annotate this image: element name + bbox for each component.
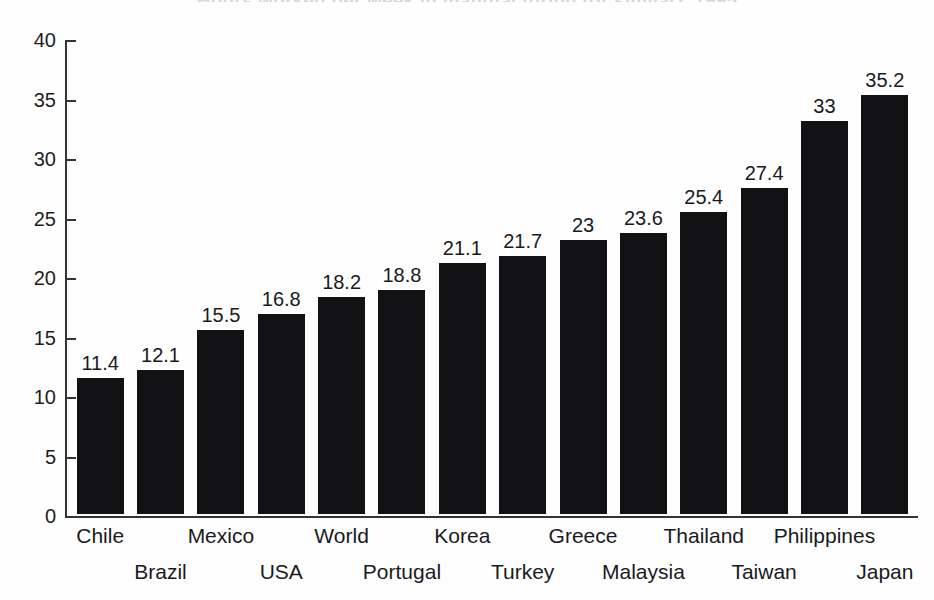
x-category-label: Korea xyxy=(434,525,490,546)
x-category-label: Portugal xyxy=(363,561,441,582)
y-tick-label: 40 xyxy=(34,30,56,50)
bar: 23 xyxy=(560,240,607,514)
bar-value-label: 18.2 xyxy=(322,272,361,292)
plot-area: 0510152025303540 11.412.115.516.818.218.… xyxy=(65,40,918,516)
bar-value-label: 23.6 xyxy=(624,208,663,228)
bar-value-label: 27.4 xyxy=(745,163,784,183)
bar: 27.4 xyxy=(741,188,788,514)
x-axis-spine xyxy=(65,516,918,518)
bar-value-label: 15.5 xyxy=(201,305,240,325)
y-tick-mark xyxy=(65,397,76,399)
x-category-label: Turkey xyxy=(491,561,554,582)
bar: 21.1 xyxy=(439,263,486,514)
y-tick-label: 25 xyxy=(34,209,56,229)
bar: 12.1 xyxy=(137,370,184,514)
y-tick-label: 0 xyxy=(45,506,56,526)
y-tick-label: 30 xyxy=(34,149,56,169)
y-tick-label: 35 xyxy=(34,90,56,110)
x-category-label: Thailand xyxy=(663,525,744,546)
y-tick-label: 10 xyxy=(34,387,56,407)
x-category-label: Brazil xyxy=(134,561,187,582)
x-category-label: USA xyxy=(260,561,303,582)
bar-value-label: 23 xyxy=(572,215,594,235)
y-tick-mark xyxy=(65,219,76,221)
bar: 35.2 xyxy=(861,95,908,514)
bar: 16.8 xyxy=(258,314,305,514)
y-tick-mark xyxy=(65,159,76,161)
bar: 11.4 xyxy=(77,378,124,514)
y-tick-mark xyxy=(65,516,76,518)
bar: 23.6 xyxy=(620,233,667,514)
y-tick-mark xyxy=(65,100,76,102)
y-tick-label: 20 xyxy=(34,268,56,288)
bar: 15.5 xyxy=(197,330,244,514)
x-category-label: Greece xyxy=(549,525,618,546)
y-tick-mark xyxy=(65,278,76,280)
bar: 21.7 xyxy=(499,256,546,514)
bar-value-label: 35.2 xyxy=(865,70,904,90)
bar-value-label: 18.8 xyxy=(382,265,421,285)
bar-chart-figure: Hours worked per week in manufacturing (… xyxy=(0,0,934,600)
bar-value-label: 33 xyxy=(813,96,835,116)
bar-value-label: 21.7 xyxy=(503,231,542,251)
x-category-label: World xyxy=(314,525,368,546)
bar: 25.4 xyxy=(680,212,727,514)
bar: 33 xyxy=(801,121,848,514)
x-category-label: Mexico xyxy=(188,525,255,546)
bar: 18.8 xyxy=(378,290,425,514)
x-category-label: Japan xyxy=(856,561,913,582)
x-category-label: Malaysia xyxy=(602,561,685,582)
x-category-label: Chile xyxy=(76,525,124,546)
bar-value-label: 12.1 xyxy=(141,345,180,365)
bar-value-label: 11.4 xyxy=(81,353,118,373)
chart-title: Hours worked per week in manufacturing (… xyxy=(0,0,934,2)
bar: 18.2 xyxy=(318,297,365,514)
y-tick-label: 5 xyxy=(45,447,56,467)
y-tick-mark xyxy=(65,338,76,340)
bar-value-label: 16.8 xyxy=(262,289,301,309)
x-category-label: Taiwan xyxy=(731,561,796,582)
y-tick-mark xyxy=(65,457,76,459)
bar-value-label: 21.1 xyxy=(443,238,482,258)
x-category-label: Philippines xyxy=(774,525,876,546)
y-tick-label: 15 xyxy=(34,328,56,348)
bar-value-label: 25.4 xyxy=(684,187,723,207)
y-tick-mark xyxy=(65,40,76,42)
